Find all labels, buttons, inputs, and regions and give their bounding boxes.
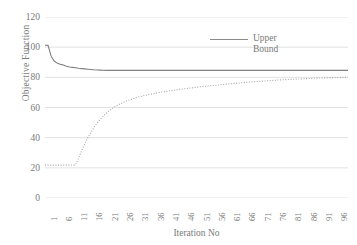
y-tick-label: 20	[14, 163, 40, 173]
x-tick-label: 21	[111, 213, 119, 222]
x-tick-label: 41	[172, 213, 180, 222]
x-tick-label: 46	[187, 213, 195, 222]
y-tick-label: 100	[14, 42, 40, 52]
y-tick-label: 60	[14, 103, 40, 113]
x-axis-tick-labels: 16111621263136414651566166717681869196	[45, 199, 348, 225]
x-tick-label: 26	[126, 213, 134, 222]
y-tick-label: 0	[14, 193, 40, 203]
series-line-upper-bound	[45, 45, 348, 70]
legend-line-swatch	[210, 39, 248, 40]
x-tick-label: 86	[310, 213, 318, 222]
x-tick-label: 56	[218, 213, 226, 222]
legend: Upper Bound	[210, 33, 295, 55]
chart-container: Objective Function 020406080100120 16111…	[0, 0, 357, 245]
y-tick-label: 120	[14, 12, 40, 22]
x-axis-title: Iteration No	[45, 228, 348, 238]
x-tick-label: 61	[233, 213, 241, 222]
x-tick-label: 66	[248, 213, 256, 222]
x-tick-label: 36	[157, 213, 165, 222]
x-tick-label: 71	[264, 213, 272, 222]
x-tick-label: 81	[294, 213, 302, 222]
x-tick-label: 11	[80, 213, 88, 221]
x-tick-label: 96	[340, 213, 348, 222]
x-tick-label: 6	[65, 217, 73, 221]
x-tick-label: 91	[325, 213, 333, 222]
y-tick-label: 40	[14, 133, 40, 143]
x-tick-label: 1	[50, 217, 58, 221]
plot-svg	[45, 17, 348, 198]
plot-area	[45, 17, 348, 198]
series-line-lower-bound	[45, 77, 348, 165]
legend-label-upper-bound: Upper Bound	[253, 33, 295, 55]
x-tick-label: 51	[203, 213, 211, 222]
y-axis-tick-labels: 020406080100120	[14, 0, 40, 245]
x-tick-label: 31	[141, 213, 149, 222]
x-tick-label: 76	[279, 213, 287, 222]
y-tick-label: 80	[14, 72, 40, 82]
x-tick-label: 16	[95, 213, 103, 222]
